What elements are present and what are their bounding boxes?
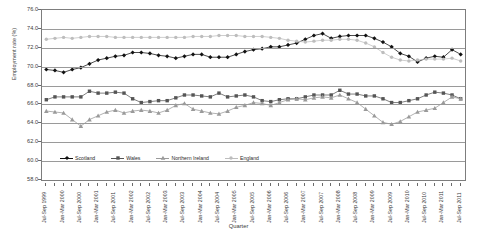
data-point [321, 39, 324, 42]
data-point [442, 57, 445, 60]
y-axis-tick-label: 62.0 [4, 138, 38, 144]
data-point [424, 57, 427, 60]
data-point [96, 91, 99, 94]
series-line [46, 95, 460, 126]
data-point [459, 59, 462, 62]
data-point [235, 34, 238, 37]
x-axis-tick-mark [460, 183, 461, 186]
x-axis-tick-mark [132, 183, 133, 186]
data-point [131, 50, 135, 54]
x-axis-tick-mark [123, 183, 124, 186]
data-point [79, 95, 82, 98]
x-axis-tick-label: Jan-Mar 2010 [404, 190, 410, 223]
data-point [88, 35, 91, 38]
x-axis-tick-label: Jul-Sep 2003 [179, 192, 185, 223]
data-point [243, 93, 246, 96]
x-axis-tick-mark [330, 183, 331, 186]
x-axis-tick-mark [97, 183, 98, 186]
x-axis-tick-mark [218, 183, 219, 186]
x-axis-tick-mark [209, 183, 210, 186]
data-point [355, 39, 358, 42]
data-point [122, 91, 125, 94]
x-axis-tick-mark [192, 183, 193, 186]
data-point [45, 98, 48, 101]
data-point [44, 67, 48, 71]
legend-item-scotland[interactable]: Scotland [60, 155, 95, 161]
data-point [183, 36, 186, 39]
y-axis-tick-label: 68.0 [4, 82, 38, 88]
y-axis-tick-label: 58.0 [4, 176, 38, 182]
data-point [433, 57, 436, 60]
x-axis-tick-mark [347, 183, 348, 186]
data-point [208, 55, 212, 59]
data-point [64, 155, 68, 159]
y-axis-tick-mark [38, 85, 41, 86]
data-point [114, 36, 117, 39]
x-axis-tick-label: Jul-Sep 2004 [214, 192, 220, 223]
data-point [432, 106, 437, 110]
data-point [433, 90, 436, 93]
data-point [407, 99, 410, 102]
legend-item-wales[interactable]: Wales [111, 155, 140, 161]
data-point [217, 91, 220, 94]
y-axis-tick-mark [38, 179, 41, 180]
legend-label: England [240, 155, 259, 161]
data-point [182, 54, 186, 58]
legend-item-northern-ireland[interactable]: Northern Ireland [156, 155, 209, 161]
x-axis-tick-mark [244, 183, 245, 186]
data-point [191, 52, 195, 56]
data-point [407, 59, 410, 62]
data-point [338, 38, 341, 41]
x-axis-tick-mark [227, 183, 228, 186]
gridline [42, 86, 465, 87]
gridline [42, 142, 465, 143]
data-point [191, 107, 196, 111]
data-point [165, 99, 168, 102]
y-axis-tick-label: 70.0 [4, 63, 38, 69]
data-point [165, 54, 169, 58]
data-point [459, 52, 463, 56]
data-point [252, 95, 255, 98]
data-point [174, 56, 178, 60]
x-axis-tick-labels: Jul-Sep 1999Jan-Mar 2000Jul-Sep 2000Jan-… [41, 183, 466, 223]
x-axis-tick-mark [158, 183, 159, 186]
data-point [381, 40, 385, 44]
data-point [226, 34, 229, 37]
data-point [373, 94, 376, 97]
y-axis-tick-label: 72.0 [4, 44, 38, 50]
data-point [295, 39, 298, 42]
data-point [312, 39, 315, 42]
data-point [148, 36, 151, 39]
x-axis-tick-mark [339, 183, 340, 186]
x-axis-tick-mark [391, 183, 392, 186]
data-point [424, 93, 427, 96]
data-point [217, 55, 221, 59]
y-axis-tick-mark [38, 122, 41, 123]
x-axis-tick-mark [88, 183, 89, 186]
gridline [42, 104, 465, 105]
data-point [96, 58, 100, 62]
legend-label: Scotland [75, 155, 95, 161]
data-point [234, 52, 238, 56]
data-point [320, 32, 324, 36]
x-axis-tick-mark [175, 183, 176, 186]
x-axis-tick-mark [442, 183, 443, 186]
x-axis-tick-mark [356, 183, 357, 186]
x-axis-tick-label: Jan-Mar 2003 [162, 190, 168, 223]
legend-swatch [111, 158, 124, 159]
x-axis-tick-label: Jul-Sep 2005 [249, 192, 255, 223]
data-point [416, 58, 419, 61]
data-point [139, 50, 143, 54]
x-axis-tick-label: Jul-Sep 2008 [352, 192, 358, 223]
data-point [62, 95, 65, 98]
x-axis-tick-mark [304, 183, 305, 186]
x-axis-tick-mark [382, 183, 383, 186]
data-point [165, 108, 170, 112]
data-point [53, 37, 56, 40]
data-point [364, 41, 367, 44]
data-point [217, 34, 220, 37]
legend-item-england[interactable]: England [225, 155, 259, 161]
employment-rate-line-chart: Employment rate (%) 58.060.062.064.066.0… [0, 0, 477, 237]
x-axis-tick-label: Jul-Sep 2006 [283, 192, 289, 223]
x-axis-tick-label: Jul-Sep 2002 [145, 192, 151, 223]
